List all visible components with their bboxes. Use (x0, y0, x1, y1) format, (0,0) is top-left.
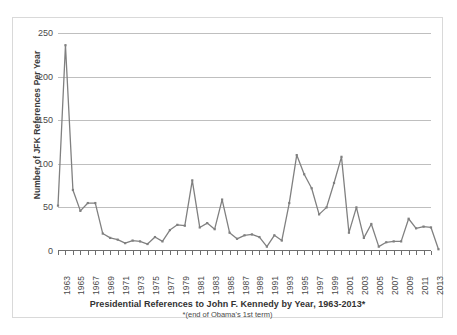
x-axis-tick-label: 2011 (420, 277, 430, 295)
data-point-marker (57, 205, 59, 207)
x-axis-tick-label: 1987 (241, 276, 251, 295)
data-point-marker (199, 226, 201, 228)
data-point-marker (228, 232, 230, 234)
series-line (58, 45, 438, 249)
x-axis-tick-label: 2013 (435, 276, 445, 295)
chart-subtitle: *(end of Obama's 1st term) (13, 310, 442, 319)
x-axis-tick-label: 2009 (405, 276, 415, 295)
data-point-marker (422, 225, 424, 227)
x-axis-tick-label: 2005 (375, 276, 385, 295)
data-series-jfk-references (58, 33, 431, 251)
x-axis-tick-labels: 1963196519671969197119731975197719791981… (58, 255, 431, 297)
data-point-marker (221, 198, 223, 200)
y-axis-tick-label: 150 (38, 115, 53, 125)
x-axis-tick-label: 1991 (270, 276, 280, 295)
chart-container: Number of JFK References Per Year 050100… (12, 17, 443, 318)
data-point-marker (430, 226, 432, 228)
x-axis-tick-label: 1965 (76, 276, 86, 295)
data-point-marker (378, 246, 380, 248)
data-point-marker (236, 238, 238, 240)
data-point-marker (94, 202, 96, 204)
data-point-marker (266, 246, 268, 248)
data-point-marker (243, 234, 245, 236)
data-point-marker (154, 236, 156, 238)
x-axis-tick-label: 1989 (255, 276, 265, 295)
y-axis-tick-label: 50 (43, 202, 53, 212)
data-point-marker (124, 242, 126, 244)
data-point-marker (161, 240, 163, 242)
x-axis-tick-label: 1981 (196, 276, 206, 295)
data-point-marker (184, 225, 186, 227)
x-axis-tick-label: 1975 (151, 276, 161, 295)
data-point-marker (132, 239, 134, 241)
data-point-marker (355, 206, 357, 208)
x-axis-tick-label: 1973 (136, 276, 146, 295)
x-axis-tick-label: 1993 (285, 276, 295, 295)
x-axis-tick-label: 1983 (211, 276, 221, 295)
data-point-marker (258, 236, 260, 238)
chart-title: Presidential References to John F. Kenne… (13, 299, 442, 309)
data-point-marker (340, 156, 342, 158)
x-axis-tick-label: 1985 (226, 276, 236, 295)
x-axis-tick-label: 1969 (106, 276, 116, 295)
x-axis-tick-label: 1995 (300, 276, 310, 295)
data-point-marker (415, 227, 417, 229)
data-point-marker (385, 241, 387, 243)
data-point-marker (206, 222, 208, 224)
data-point-marker (273, 234, 275, 236)
data-point-marker (214, 228, 216, 230)
data-point-marker (311, 187, 313, 189)
x-axis-tick-label: 2001 (345, 276, 355, 295)
data-point-marker (191, 179, 193, 181)
x-axis-tick-label: 1977 (166, 276, 176, 295)
data-point-marker (333, 182, 335, 184)
y-axis-tick-label: 100 (38, 159, 53, 169)
data-point-marker (87, 202, 89, 204)
y-axis-tick-label: 200 (38, 72, 53, 82)
data-point-marker (117, 239, 119, 241)
data-point-marker (363, 237, 365, 239)
data-point-marker (169, 229, 171, 231)
data-point-marker (288, 202, 290, 204)
data-point-marker (325, 206, 327, 208)
data-point-marker (348, 232, 350, 234)
data-point-marker (79, 210, 81, 212)
data-point-marker (370, 223, 372, 225)
data-point-marker (109, 237, 111, 239)
y-axis-tick-label: 250 (38, 28, 53, 38)
y-axis-tick-label: 0 (48, 246, 53, 256)
x-axis-tick-label: 2007 (390, 276, 400, 295)
x-axis-tick-label: 1971 (121, 276, 131, 295)
data-point-marker (408, 218, 410, 220)
data-point-marker (102, 232, 104, 234)
data-point-marker (318, 213, 320, 215)
x-axis-tick-label: 1967 (91, 276, 101, 295)
x-axis-tick-label: 2003 (360, 276, 370, 295)
data-point-marker (64, 44, 66, 46)
data-point-marker (400, 240, 402, 242)
x-axis-tick-label: 1999 (330, 276, 340, 295)
data-point-marker (437, 248, 439, 250)
data-point-marker (72, 189, 74, 191)
data-point-marker (139, 240, 141, 242)
data-point-marker (281, 239, 283, 241)
plot-area: 050100150200250 (58, 33, 431, 251)
data-point-marker (176, 224, 178, 226)
x-axis-tick-label: 1997 (315, 276, 325, 295)
data-point-marker (251, 233, 253, 235)
x-axis-tick-label: 1963 (62, 276, 72, 295)
data-point-marker (296, 154, 298, 156)
x-axis-tick-label: 1979 (181, 276, 191, 295)
x-axis-tick (431, 251, 432, 255)
data-point-marker (393, 240, 395, 242)
data-point-marker (146, 243, 148, 245)
data-point-marker (303, 173, 305, 175)
